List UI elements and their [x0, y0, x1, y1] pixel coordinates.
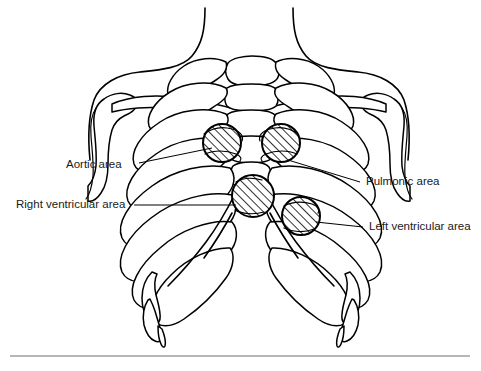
label-aortic-area: Aortic area [66, 159, 122, 171]
label-left-ventricular-area: Left ventricular area [369, 221, 471, 233]
label-pulmonic-area: Pulmonic area [366, 176, 440, 188]
label-right-ventricular-area: Right ventricular area [16, 199, 125, 211]
figure-container: Aortic area Right ventricular area Pulmo… [0, 0, 481, 371]
